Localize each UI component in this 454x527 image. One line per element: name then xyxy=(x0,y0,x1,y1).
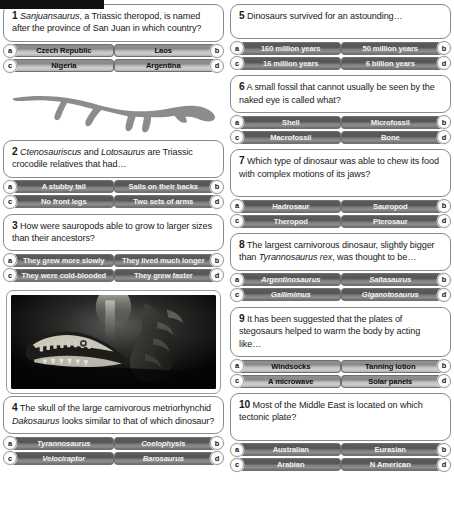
quiz-page: 1 Sanjuansaurus, a Triassic theropod, is… xyxy=(0,0,454,527)
answer-option-b[interactable]: bThey lived much longer xyxy=(114,253,225,267)
answer-key-badge-d: d xyxy=(437,214,451,228)
answer-option-a[interactable]: aTyrannosaurus xyxy=(3,436,114,450)
answer-label-a[interactable]: Hadrosaur xyxy=(239,200,341,213)
answer-label-b[interactable]: Saltasaurus xyxy=(341,273,443,286)
question-text: 7 Which type of dinosaur was able to che… xyxy=(239,155,442,180)
answer-row: aTyrannosaurusbCoelophysis xyxy=(3,436,224,450)
question-text-italic: Ctenosauriscus xyxy=(20,147,81,157)
answer-option-a[interactable]: a160 million years xyxy=(230,41,341,55)
answer-key-badge-c: c xyxy=(3,59,17,73)
answer-option-a[interactable]: aShell xyxy=(230,115,341,129)
answer-label-d[interactable]: Solar panels xyxy=(341,375,443,388)
answer-label-a[interactable]: A stubby tail xyxy=(12,180,114,193)
answer-label-b[interactable]: Sauropod xyxy=(341,200,443,213)
answer-label-b[interactable]: Microfossil xyxy=(341,116,443,129)
question-text: 8 The largest carnivorous dinosaur, slig… xyxy=(239,239,442,264)
answer-label-d[interactable]: They grew faster xyxy=(114,269,216,282)
question-block-6: 6 A small fossil that cannot usually be … xyxy=(230,75,451,144)
answer-option-c[interactable]: cArabian xyxy=(230,458,341,472)
answer-option-a[interactable]: aThey grew more slowly xyxy=(3,253,114,267)
answer-label-c[interactable]: 16 million years xyxy=(239,57,341,70)
question-text-part: , was thought to be… xyxy=(332,252,416,262)
answer-label-c[interactable]: Macrofossil xyxy=(239,131,341,144)
answer-label-d[interactable]: N American xyxy=(341,458,443,471)
answer-option-d[interactable]: dGiganotosaurus xyxy=(341,288,452,302)
answer-option-d[interactable]: dBarosaurus xyxy=(114,451,225,465)
answer-label-d[interactable]: Two sets of arms xyxy=(114,195,216,208)
answer-option-c[interactable]: cTheropod xyxy=(230,214,341,228)
answer-label-b[interactable]: They lived much longer xyxy=(114,254,216,267)
answer-label-a[interactable]: Czech Republic xyxy=(12,44,114,57)
answer-label-d[interactable]: Argentina xyxy=(114,59,216,72)
answer-option-c[interactable]: cNigeria xyxy=(3,59,114,73)
answer-label-c[interactable]: Velociraptor xyxy=(12,452,114,465)
answer-label-d[interactable]: Pterosaur xyxy=(341,215,443,228)
question-number: 1 xyxy=(12,10,18,21)
answer-option-c[interactable]: cMacrofossil xyxy=(230,130,341,144)
answer-label-a[interactable]: They grew more slowly xyxy=(12,254,114,267)
answer-label-a[interactable]: Australian xyxy=(239,443,341,456)
answer-label-c[interactable]: Arabian xyxy=(239,458,341,471)
answer-option-d[interactable]: dThey grew faster xyxy=(114,268,225,282)
answer-label-a[interactable]: Shell xyxy=(239,116,341,129)
answer-label-a[interactable]: Argentinosaurus xyxy=(239,273,341,286)
answer-option-d[interactable]: dSolar panels xyxy=(341,374,452,388)
answer-option-c[interactable]: cVelociraptor xyxy=(3,451,114,465)
answer-option-b[interactable]: bTanning lotion xyxy=(341,359,452,373)
answer-option-a[interactable]: aAustralian xyxy=(230,443,341,457)
answer-label-c[interactable]: Gallimimus xyxy=(239,288,341,301)
question-text-part: It has been suggested that the plates of… xyxy=(239,314,420,349)
answer-option-b[interactable]: bCoelophysis xyxy=(114,436,225,450)
answer-option-d[interactable]: dBone xyxy=(341,130,452,144)
answer-label-b[interactable]: Coelophysis xyxy=(114,437,216,450)
answer-option-b[interactable]: bEurasian xyxy=(341,443,452,457)
answer-option-d[interactable]: dPterosaur xyxy=(341,214,452,228)
answer-key-badge-b: b xyxy=(437,273,451,287)
answer-label-c[interactable]: They were cold-blooded xyxy=(12,269,114,282)
answer-label-b[interactable]: 50 million years xyxy=(341,42,443,55)
answer-label-b[interactable]: Laos xyxy=(114,44,216,57)
answer-option-d[interactable]: dTwo sets of arms xyxy=(114,195,225,209)
answer-option-d[interactable]: d6 billion years xyxy=(341,56,452,70)
answer-option-a[interactable]: aArgentinosaurus xyxy=(230,273,341,287)
answer-option-b[interactable]: bSauropod xyxy=(341,199,452,213)
answer-label-c[interactable]: A microwave xyxy=(239,375,341,388)
answer-option-c[interactable]: cA microwave xyxy=(230,374,341,388)
answer-option-a[interactable]: aCzech Republic xyxy=(3,44,114,58)
answer-option-b[interactable]: b50 million years xyxy=(341,41,452,55)
answer-label-d[interactable]: Bone xyxy=(341,131,443,144)
question-text: 4 The skull of the large carnivorous met… xyxy=(12,402,215,427)
answer-label-c[interactable]: Theropod xyxy=(239,215,341,228)
answer-label-d[interactable]: 6 billion years xyxy=(341,57,443,70)
answer-option-a[interactable]: aHadrosaur xyxy=(230,199,341,213)
answer-label-d[interactable]: Giganotosaurus xyxy=(341,288,443,301)
answer-option-c[interactable]: cThey were cold-blooded xyxy=(3,268,114,282)
answer-label-b[interactable]: Eurasian xyxy=(341,443,443,456)
answer-row: cTheropoddPterosaur xyxy=(230,214,451,228)
answer-option-d[interactable]: dArgentina xyxy=(114,59,225,73)
answer-label-b[interactable]: Sails on their backs xyxy=(114,180,216,193)
answer-option-d[interactable]: dN American xyxy=(341,458,452,472)
question-text: 5 Dinosaurs survived for an astounding… xyxy=(239,10,442,22)
question-text: 2 Ctenosauriscus and Lotosaurus are Tria… xyxy=(12,146,215,171)
answer-option-c[interactable]: c16 million years xyxy=(230,56,341,70)
answer-option-b[interactable]: bSails on their backs xyxy=(114,180,225,194)
answer-option-b[interactable]: bLaos xyxy=(114,44,225,58)
answer-row: aCzech RepublicbLaos xyxy=(3,44,224,58)
answer-option-b[interactable]: bMicrofossil xyxy=(341,115,452,129)
answer-label-d[interactable]: Barosaurus xyxy=(114,452,216,465)
answer-option-b[interactable]: bSaltasaurus xyxy=(341,273,452,287)
answer-key-badge-a: a xyxy=(230,199,244,213)
answer-label-c[interactable]: No front legs xyxy=(12,195,114,208)
answer-label-a[interactable]: Windsocks xyxy=(239,360,341,373)
answer-option-c[interactable]: cNo front legs xyxy=(3,195,114,209)
answer-label-b[interactable]: Tanning lotion xyxy=(341,360,443,373)
question-card: 9 It has been suggested that the plates … xyxy=(230,307,451,357)
answer-option-a[interactable]: aA stubby tail xyxy=(3,180,114,194)
answer-option-a[interactable]: aWindsocks xyxy=(230,359,341,373)
answer-label-a[interactable]: Tyrannosaurus xyxy=(12,437,114,450)
answer-option-c[interactable]: cGallimimus xyxy=(230,288,341,302)
answer-label-a[interactable]: 160 million years xyxy=(239,42,341,55)
answer-key-badge-a: a xyxy=(3,44,17,58)
answer-label-c[interactable]: Nigeria xyxy=(12,59,114,72)
